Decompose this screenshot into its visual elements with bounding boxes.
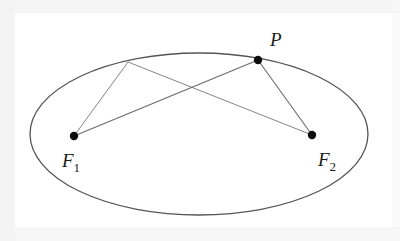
ellipse-diagram: P F1 F2 (0, 0, 400, 241)
focus2-label: F2 (317, 149, 336, 174)
point-p-marker (254, 56, 262, 64)
figure-canvas: P F1 F2 (0, 0, 400, 241)
focus1-label: F1 (61, 150, 80, 175)
segment-q-to-focus2 (128, 62, 312, 135)
point-focus1-marker (70, 132, 78, 140)
ellipse-curve (30, 53, 368, 215)
point-focus2-marker (308, 131, 316, 139)
segment-p-to-focus2 (258, 60, 312, 135)
point-p-label: P (269, 29, 282, 50)
